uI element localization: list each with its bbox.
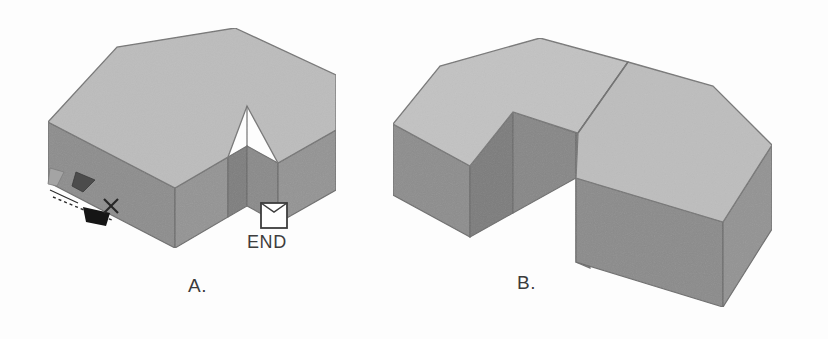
block-b — [393, 38, 772, 307]
panel-b-caption: B. — [517, 272, 536, 294]
figure-container: A. B. END — [0, 0, 828, 339]
isometric-blocks-illustration — [0, 0, 828, 339]
block-a-notch-inner-left-face — [228, 146, 247, 217]
panel-a-caption: A. — [188, 275, 207, 297]
end-marker-label: END — [247, 232, 287, 253]
end-marker-square-icon — [261, 203, 287, 228]
